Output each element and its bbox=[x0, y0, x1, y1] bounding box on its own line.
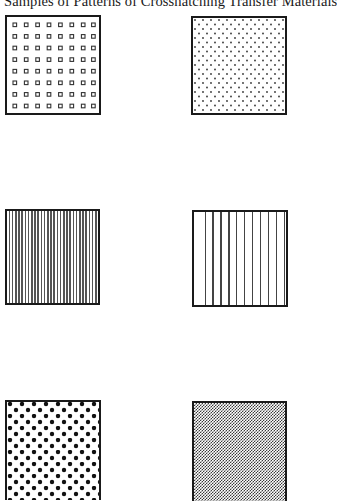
fine-dots-pattern bbox=[193, 18, 285, 113]
page-title: Samples of Patterns of Crosshatching Tra… bbox=[4, 0, 337, 10]
large-dots-pattern bbox=[7, 402, 101, 500]
swatch-fine-checker bbox=[192, 401, 287, 501]
swatch-dense-vertical-lines bbox=[5, 209, 100, 305]
hollow-squares-pattern bbox=[7, 17, 99, 113]
swatch-hollow-squares bbox=[5, 15, 101, 115]
swatch-sparse-vertical-lines bbox=[192, 210, 288, 307]
swatch-large-dots bbox=[5, 400, 101, 500]
swatch-fine-dots bbox=[191, 16, 287, 115]
